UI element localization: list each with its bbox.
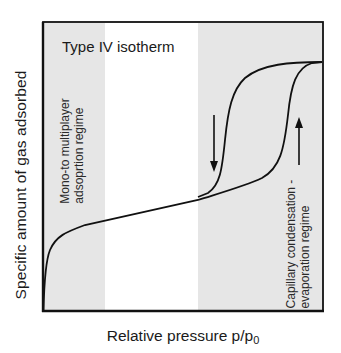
left-region-line1: Mono-to multiplayer [58,98,72,203]
figure-title: Type IV isotherm [62,38,175,55]
x-axis-label: Relative pressure p/p0 [107,327,260,346]
right-region-line2: evaporation regime [298,180,312,309]
right-region-line1: Capillary condensation - [284,180,298,309]
right-region-label: Capillary condensation - evaporation reg… [284,180,312,309]
x-axis-label-main: Relative pressure p/p [107,327,253,344]
left-region-label: Mono-to multiplayer adsoprtion regime [58,98,86,203]
y-axis-label: Specific amount of gas adsorbed [12,71,30,300]
isotherm-figure: Type IV isotherm Mono-to multiplayer ads… [0,0,341,353]
left-region-line2: adsoprtion regime [72,98,86,203]
x-axis-label-subscript: 0 [253,334,259,346]
